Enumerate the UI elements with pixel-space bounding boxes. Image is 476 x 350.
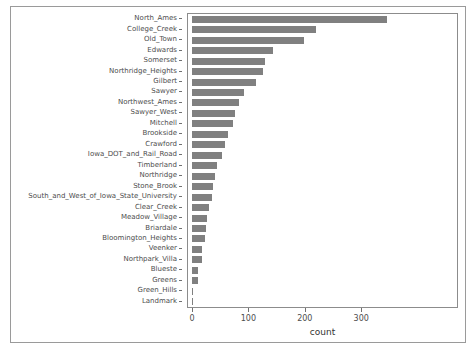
y-axis-tick-mark	[179, 269, 182, 270]
y-axis-tick-mark	[179, 290, 182, 291]
y-axis-tick-mark	[179, 123, 182, 124]
y-axis-tick-label: Gilbert	[153, 77, 177, 85]
bar	[192, 120, 233, 127]
y-axis-tick-mark	[179, 50, 182, 51]
bar	[192, 204, 209, 211]
y-axis-tick-label: Northwest_Ames	[118, 98, 177, 106]
y-axis-tick-label: Timberland	[137, 161, 177, 169]
x-axis-tick-mark	[361, 308, 362, 312]
y-axis-tick-mark	[179, 259, 182, 260]
bar	[192, 162, 217, 169]
bar	[192, 225, 206, 232]
y-axis-tick-label: Sawyer_West	[131, 108, 178, 116]
bar	[192, 246, 202, 253]
y-axis-tick-label: Sawyer	[151, 87, 177, 95]
x-axis-tick-mark	[305, 308, 306, 312]
y-axis-tick-mark	[179, 112, 182, 113]
bar	[192, 256, 202, 263]
y-axis-tick-mark	[179, 301, 182, 302]
y-axis-tick-label: Brookside	[143, 129, 178, 137]
bar	[192, 288, 193, 295]
bar	[192, 99, 239, 106]
bar	[192, 131, 228, 138]
y-axis-tick-label: South_and_West_of_Iowa_State_University	[28, 192, 177, 200]
y-axis-tick-label: Edwards	[147, 46, 177, 54]
x-axis-title: count	[187, 327, 458, 337]
bar	[192, 16, 387, 23]
y-axis-tick-label: North_Ames	[134, 14, 177, 22]
y-axis-tick-mark	[179, 238, 182, 239]
y-axis-tick-mark	[179, 71, 182, 72]
bar	[192, 26, 316, 33]
y-axis-tick-mark	[179, 29, 182, 30]
x-axis-tick-label: 200	[297, 314, 312, 323]
bar	[192, 183, 213, 190]
y-axis-tick-label: Northpark_Villa	[123, 255, 177, 263]
bar	[192, 110, 235, 117]
y-axis-tick-label: Blueste	[151, 265, 177, 273]
y-axis-tick-mark	[179, 228, 182, 229]
x-axis-tick-mark	[248, 308, 249, 312]
y-axis-tick-mark	[179, 102, 182, 103]
y-axis-tick-mark	[179, 39, 182, 40]
y-axis-tick-mark	[179, 280, 182, 281]
y-axis-tick-label: Landmark	[142, 297, 177, 305]
y-axis-tick-mark	[179, 91, 182, 92]
y-axis-tick-label: Mitchell	[150, 119, 177, 127]
y-axis-tick-label: Northridge_Heights	[109, 67, 177, 75]
y-axis-tick-mark	[179, 81, 182, 82]
plot-panel	[187, 13, 458, 308]
y-axis-tick-mark	[179, 217, 182, 218]
x-axis-tick-label: 100	[241, 314, 256, 323]
y-axis-tick-mark	[179, 248, 182, 249]
bar	[192, 79, 256, 86]
y-axis-tick-label: Meadow_Village	[121, 213, 177, 221]
y-axis-tick-label: Greens	[152, 276, 177, 284]
bar	[192, 47, 273, 54]
y-axis-tick-label: Bloomington_Heights	[102, 234, 177, 242]
y-axis-tick-label: Somerset	[144, 56, 177, 64]
x-axis-tick-mark	[192, 308, 193, 312]
y-axis-tick-mark	[179, 196, 182, 197]
bar	[192, 141, 225, 148]
y-axis-tick-mark	[179, 165, 182, 166]
y-axis-tick-label: Old_Town	[144, 35, 177, 43]
y-axis-tick-mark	[179, 60, 182, 61]
y-axis-tick-mark	[179, 175, 182, 176]
bar	[192, 37, 304, 44]
bar	[192, 68, 263, 75]
bar	[192, 58, 265, 65]
y-axis-tick-label: Green_Hills	[138, 286, 177, 294]
bar	[192, 173, 215, 180]
chart-figure: LandmarkGreen_HillsGreensBluesteNorthpar…	[0, 0, 476, 350]
y-axis-tick-mark	[179, 186, 182, 187]
y-axis-tick-label: Stone_Brook	[133, 182, 177, 190]
y-axis-tick-mark	[179, 133, 182, 134]
y-axis-tick-label: Crawford	[145, 140, 177, 148]
y-axis-tick-mark	[179, 18, 182, 19]
y-axis-tick-label: Iowa_DOT_and_Rail_Road	[88, 150, 177, 158]
y-axis-tick-mark	[179, 144, 182, 145]
bar	[192, 235, 205, 242]
bar	[192, 194, 212, 201]
y-axis-tick-label: Briardale	[145, 224, 177, 232]
y-axis-tick-label: Northridge	[139, 171, 177, 179]
y-axis-labels: LandmarkGreen_HillsGreensBluesteNorthpar…	[12, 13, 182, 308]
x-axis-tick-label: 300	[354, 314, 369, 323]
bar	[192, 298, 193, 305]
bar	[192, 277, 198, 284]
bar	[192, 267, 198, 274]
x-axis-tick-label: 0	[189, 314, 194, 323]
y-axis-tick-label: College_Creek	[127, 25, 177, 33]
y-axis-tick-label: Veenker	[149, 244, 177, 252]
bar	[192, 152, 222, 159]
bar	[192, 215, 207, 222]
bar	[192, 89, 244, 96]
y-axis-tick-mark	[179, 154, 182, 155]
y-axis-tick-label: Clear_Creek	[135, 203, 177, 211]
y-axis-tick-mark	[179, 207, 182, 208]
